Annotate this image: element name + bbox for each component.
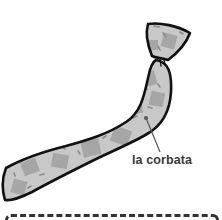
tie-label: la corbata xyxy=(132,153,192,167)
necktie-illustration xyxy=(0,0,222,220)
answer-box-border xyxy=(5,214,219,220)
necktie-icon xyxy=(0,0,222,220)
